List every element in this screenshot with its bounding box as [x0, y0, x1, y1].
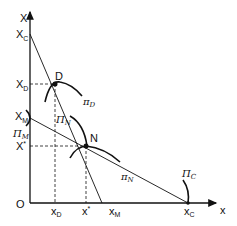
point-n: [84, 144, 89, 149]
label-pi-d: πD: [82, 96, 96, 109]
tick-xm: xM: [109, 205, 121, 218]
curve-pi-n: [86, 146, 120, 162]
y-axis-label: X: [20, 12, 28, 24]
curve-Pi-n: [70, 116, 87, 146]
line-xm-to-xc: [30, 118, 188, 203]
x-axis-label: x: [220, 204, 226, 216]
point-d: [53, 82, 58, 87]
label-Pi-m: ΠM: [12, 128, 30, 141]
tick-xd: xD: [51, 205, 62, 218]
tick-xstar: x*: [82, 205, 91, 217]
label-Pi-n: ΠN: [55, 114, 72, 127]
origin-label: O: [16, 198, 25, 210]
economic-diagram: X x O XC XD XM X* xD x* xM xC D N πD ΠN …: [0, 0, 237, 226]
label-n: N: [90, 132, 98, 144]
curve-pi-d: [45, 82, 82, 102]
tick-xc: xC: [184, 205, 195, 218]
label-Pi-c: ΠC: [181, 168, 197, 181]
label-d: D: [55, 70, 63, 82]
tick-Xstar: X*: [16, 140, 26, 152]
tick-Xm: XM: [15, 110, 28, 124]
curve-Pi-c: [183, 180, 188, 203]
tick-Xc: XC: [16, 28, 28, 42]
tick-Xd: XD: [16, 78, 28, 92]
